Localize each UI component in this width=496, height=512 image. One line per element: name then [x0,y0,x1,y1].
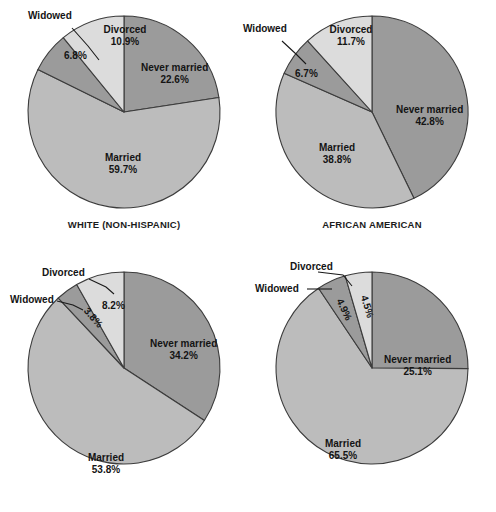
label-widowed-pct: 6.7% [295,68,318,79]
label-never-married: Never married 25.1% [384,354,451,378]
chart-african-american: Never married 42.8% Married 38.8% Widowe… [248,0,496,256]
label-married: Married 59.7% [83,152,163,176]
label-married-text: Married [105,152,141,163]
label-married: Married 53.8% [66,452,146,476]
label-divorced-pct-wrap: 8.2% [102,300,125,312]
label-widowed: Widowed [255,283,299,295]
chart-hispanic: Never married 34.2% Married 53.8% Widowe… [0,256,248,512]
label-never-married-pct: 34.2% [150,350,217,362]
label-widowed: Widowed [28,10,72,22]
pie-chart-figure: Never married 22.6% Married 59.7% Widowe… [0,0,496,512]
label-never-married: Never married 42.8% [396,104,463,128]
label-divorced: Divorced [42,267,85,279]
label-divorced: Divorced [290,261,333,273]
label-widowed: Widowed [10,294,54,306]
label-married: Married 65.5% [303,438,383,462]
label-never-married-text: Never married [384,354,451,365]
chart-white-non-hispanic: Never married 22.6% Married 59.7% Widowe… [0,0,248,256]
label-married: Married 38.8% [297,142,377,166]
chart-asian-pacific-islander: Never married 25.1% Married 65.5% Widowe… [248,256,496,512]
label-married-text: Married [325,438,361,449]
label-divorced-text: Divorced [104,24,147,35]
label-divorced-text: Divorced [290,261,333,272]
label-married-pct: 65.5% [303,450,383,462]
label-never-married-pct: 22.6% [141,74,208,86]
label-widowed-text: Widowed [255,283,299,294]
label-divorced-text: Divorced [330,24,373,35]
label-never-married: Never married 34.2% [150,338,217,362]
label-married-pct: 38.8% [297,154,377,166]
label-never-married-pct: 42.8% [396,116,463,128]
label-married-text: Married [88,452,124,463]
label-divorced-pct: 8.2% [102,300,125,311]
label-widowed: Widowed [243,23,287,35]
label-widowed-pct: 6.8% [64,50,87,61]
label-divorced-text: Divorced [42,267,85,278]
label-never-married: Never married 22.6% [141,62,208,86]
label-divorced: Divorced 10.9% [96,24,154,48]
caption-african-american: AFRICAN AMERICAN [248,219,496,230]
label-widowed-text: Widowed [243,23,287,34]
caption-white-non-hispanic: WHITE (NON-HISPANIC) [0,219,248,230]
label-widowed-pct-wrap: 6.8% [64,50,87,62]
label-widowed-text: Widowed [10,294,54,305]
label-never-married-text: Never married [141,62,208,73]
label-divorced: Divorced 11.7% [322,24,380,48]
label-divorced-pct: 10.9% [96,36,154,48]
label-married-pct: 53.8% [66,464,146,476]
label-never-married-text: Never married [150,338,217,349]
label-married-pct: 59.7% [83,164,163,176]
label-widowed-text: Widowed [28,10,72,21]
label-married-text: Married [319,142,355,153]
label-never-married-pct: 25.1% [384,366,451,378]
label-divorced-pct: 11.7% [322,36,380,48]
label-never-married-text: Never married [396,104,463,115]
label-widowed-pct-wrap: 6.7% [295,68,318,80]
